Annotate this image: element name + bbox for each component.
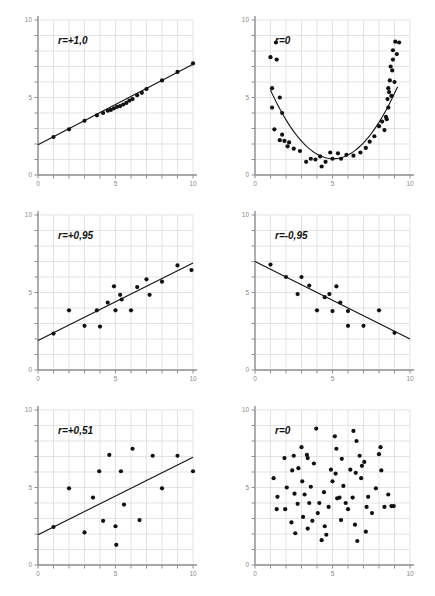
data-point [351,154,355,158]
scatter-panel-middle-left: 05101050r=+0,95 [14,201,210,391]
x-tick-label: 10 [189,375,197,382]
data-point [374,486,378,490]
data-point [330,479,334,483]
data-point [287,140,291,144]
data-point [358,454,362,458]
y-tick-label: 10 [25,16,33,23]
data-point [310,519,314,523]
y-tick-label: 5 [245,289,249,296]
data-point [391,57,395,61]
data-point [67,486,71,490]
data-point [118,293,122,297]
data-point [296,466,300,470]
data-point [299,275,303,279]
y-tick-label: 10 [25,211,33,218]
scatter-panel-bottom-left: 05101050r=+0,51 [14,396,210,586]
data-point [382,505,386,509]
data-point [292,454,296,458]
data-point [368,140,372,144]
data-point [191,469,195,473]
data-point [327,292,331,296]
data-points [272,427,396,544]
data-point [379,468,383,472]
data-point [324,533,328,537]
data-point [280,133,284,137]
data-point [361,324,365,328]
data-point [338,300,342,304]
data-point [144,277,148,281]
data-points [51,447,195,547]
data-point [351,429,355,433]
data-point [358,150,362,154]
data-point [339,157,343,161]
data-point [113,524,117,528]
data-point [370,511,374,515]
x-tick-label: 5 [331,570,335,577]
data-point [316,511,320,515]
data-point [346,324,350,328]
data-point [130,447,134,451]
data-point [280,111,284,115]
data-point [268,263,272,267]
tick-marks [252,410,411,569]
x-tick-label: 0 [36,570,40,577]
y-tick-label: 0 [245,561,249,568]
x-tick-label: 10 [406,180,414,187]
x-tick-label: 5 [114,180,118,187]
data-point [360,464,364,468]
data-point [278,138,282,142]
data-point [189,268,193,272]
data-point [278,95,282,99]
data-point [339,518,343,522]
data-point [101,519,105,523]
data-point [366,495,370,499]
x-tick-label: 5 [331,375,335,382]
data-point [344,501,348,505]
y-tick-label: 10 [242,406,250,413]
x-tick-label: 0 [36,180,40,187]
data-point [101,111,105,115]
y-tick-label: 0 [245,171,249,178]
data-point [293,531,297,535]
data-point [318,154,322,158]
data-point [67,308,71,312]
x-tick-label: 0 [36,375,40,382]
data-point [282,139,286,143]
data-point [268,55,272,59]
data-point [51,331,55,335]
data-point [323,295,327,299]
data-point [270,105,274,109]
data-point [95,113,99,117]
data-point [334,447,338,451]
y-tick-label: 10 [25,406,33,413]
data-point [388,78,392,82]
data-point [364,530,368,534]
data-point [392,504,396,508]
data-point [284,275,288,279]
tick-labels: 05101050 [25,16,197,187]
tick-marks [35,215,194,374]
data-point [296,502,300,506]
x-tick-label: 10 [189,180,197,187]
data-point [112,284,116,288]
data-point [314,427,318,431]
data-point [378,445,382,449]
data-point [300,479,304,483]
data-point [135,285,139,289]
x-tick-label: 10 [189,570,197,577]
data-point [160,78,164,82]
data-point [98,325,102,329]
data-point [334,471,338,475]
tick-marks [35,20,194,179]
gridlines [255,410,410,565]
data-point [392,331,396,335]
data-point [312,461,316,465]
data-point [315,308,319,312]
data-point [282,456,286,460]
data-point [336,151,340,155]
data-point [340,457,344,461]
data-point [67,127,71,131]
data-point [390,68,394,72]
data-point [129,308,133,312]
data-point [386,86,390,90]
